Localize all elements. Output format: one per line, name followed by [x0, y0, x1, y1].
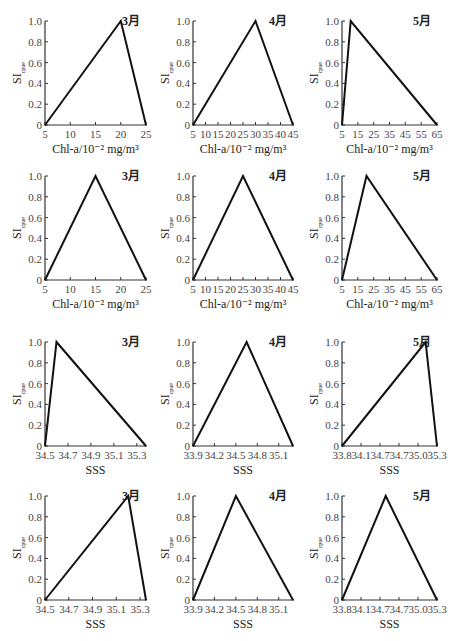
x-tick-label: 35.3: [130, 603, 150, 615]
x-tick-label: 35: [263, 128, 275, 140]
panel-r4-c1: 00.20.40.60.81.034.534.734.935.135.3SSSS…: [10, 489, 150, 631]
y-tick-label: 0.8: [176, 36, 190, 48]
y-axis-title: SIcpue: [10, 383, 26, 405]
y-tick-label: 0.6: [325, 212, 339, 224]
x-tick-label: 45: [288, 128, 300, 140]
y-axis-title-subscript: cpue: [20, 537, 26, 549]
data-point: [436, 279, 438, 281]
x-tick-label: 10: [200, 128, 212, 140]
data-point: [44, 279, 46, 281]
x-tick-label: 45: [288, 283, 300, 295]
data-point: [242, 175, 244, 177]
y-tick-label: 0.2: [325, 98, 339, 110]
y-tick-label: 0.2: [176, 419, 190, 431]
y-axis-title: SIcpue: [158, 62, 174, 84]
y-axis-title-main: SI: [307, 73, 321, 84]
x-tick-label: 35.1: [107, 603, 126, 615]
x-tick-label: 33.9: [183, 603, 203, 615]
x-tick-label: 34.7: [370, 449, 390, 461]
y-tick-label: 1.0: [28, 170, 42, 182]
data-point: [436, 124, 438, 126]
y-axis-title-subscript: cpue: [20, 62, 26, 74]
si-curve: [193, 496, 293, 600]
y-tick-label: 0.4: [325, 552, 339, 564]
y-tick-label: 0.8: [176, 511, 190, 523]
x-tick-label: 35.1: [104, 449, 123, 461]
month-label: 3月: [122, 169, 140, 183]
y-tick-label: 0.6: [176, 212, 190, 224]
panel-r2-c2: 00.20.40.60.81.051015202530354045Chl-a/1…: [158, 169, 299, 311]
si-curve: [193, 176, 293, 280]
y-tick-label: 1.0: [28, 15, 42, 27]
y-tick-label: 1.0: [325, 170, 339, 182]
y-tick-label: 0.6: [176, 57, 190, 69]
y-axis-title-subscript: cpue: [317, 62, 323, 74]
y-tick-label: 0.2: [176, 253, 190, 265]
x-tick-label: 10: [200, 283, 212, 295]
x-tick-label: 5: [339, 128, 345, 140]
data-point: [255, 20, 257, 22]
panel-r1-c3: 00.20.40.60.81.05152535455565Chl-a/10⁻² …: [307, 14, 443, 156]
x-tick-label: 5: [190, 128, 196, 140]
data-point: [292, 445, 294, 447]
x-tick-label: 34.5: [226, 449, 246, 461]
data-point: [292, 279, 294, 281]
panel-r3-c3: 00.20.40.60.81.033.834.134.734.735.035.3…: [307, 335, 447, 477]
x-tick-label: 15: [352, 128, 364, 140]
y-tick-label: 0.2: [325, 419, 339, 431]
x-tick-label: 20: [225, 128, 237, 140]
x-tick-label: 34.9: [83, 603, 103, 615]
y-tick-label: 0.8: [325, 511, 339, 523]
x-tick-label: 55: [416, 128, 428, 140]
y-axis-title-subscript: cpue: [168, 537, 174, 549]
x-tick-label: 5: [42, 128, 48, 140]
figure-grid: 00.20.40.60.81.0510152025Chl-a/10⁻² mg/m…: [0, 0, 462, 641]
x-tick-label: 35: [263, 283, 275, 295]
month-label: 3月: [122, 14, 140, 28]
x-tick-label: 5: [190, 283, 196, 295]
x-tick-label: 34.5: [35, 603, 55, 615]
month-label: 4月: [269, 14, 287, 28]
data-point: [95, 175, 97, 177]
x-axis-title: Chl-a/10⁻² mg/m³: [52, 142, 139, 156]
x-axis-title: SSS: [233, 463, 253, 477]
y-axis-title: SIcpue: [158, 537, 174, 559]
x-tick-label: 34.5: [35, 449, 55, 461]
si-curve: [342, 342, 437, 446]
panel-r3-c1: 00.20.40.60.81.034.534.734.935.135.3SSSS…: [10, 335, 147, 477]
x-axis-title: SSS: [233, 617, 253, 631]
x-axis-title: SSS: [85, 463, 105, 477]
y-axis-title-main: SI: [10, 548, 24, 559]
y-tick-label: 0.6: [28, 532, 42, 544]
x-tick-label: 34.8: [248, 603, 268, 615]
y-axis-title-main: SI: [158, 548, 172, 559]
y-axis-title-subscript: cpue: [317, 383, 323, 395]
x-tick-label: 35.3: [427, 449, 447, 461]
data-point: [145, 279, 147, 281]
data-point: [56, 341, 58, 343]
data-point: [44, 124, 46, 126]
x-tick-label: 45: [400, 283, 412, 295]
x-tick-label: 65: [432, 128, 444, 140]
y-tick-label: 0.8: [176, 357, 190, 369]
data-point: [44, 599, 46, 601]
panel-r4-c3: 00.20.40.60.81.033.834.134.734.735.035.3…: [307, 489, 447, 631]
month-label: 5月: [413, 169, 431, 183]
y-axis-title-main: SI: [158, 394, 172, 405]
y-axis-title-main: SI: [10, 394, 24, 405]
data-point: [350, 20, 352, 22]
x-tick-label: 45: [400, 128, 412, 140]
y-axis-title-main: SI: [10, 228, 24, 239]
x-tick-label: 5: [42, 283, 48, 295]
si-curve: [45, 21, 146, 125]
y-axis-title-subscript: cpue: [168, 62, 174, 74]
y-axis-title-main: SI: [158, 73, 172, 84]
data-point: [120, 20, 122, 22]
y-axis-title-subscript: cpue: [317, 217, 323, 229]
y-tick-label: 0.2: [325, 253, 339, 265]
y-axis-title-main: SI: [307, 394, 321, 405]
x-tick-label: 35: [384, 128, 396, 140]
y-tick-label: 0.2: [176, 573, 190, 585]
x-tick-label: 33.8: [332, 449, 352, 461]
x-tick-label: 40: [275, 128, 287, 140]
